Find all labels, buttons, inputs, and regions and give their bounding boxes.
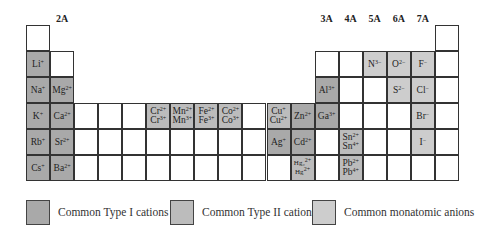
ion-symbol: Cr3+ bbox=[150, 116, 166, 125]
ion-symbol: Ba2+ bbox=[54, 164, 71, 173]
empty-cell bbox=[339, 103, 363, 129]
ion-cell: Ga3+ bbox=[315, 103, 339, 129]
ion-symbol: S2− bbox=[393, 86, 405, 95]
ion-cell: Na+ bbox=[26, 77, 50, 103]
ion-symbol: Cs+ bbox=[31, 164, 44, 173]
ion-cell: Cr2+Cr3+ bbox=[146, 103, 170, 129]
group-label: 6A bbox=[387, 13, 411, 24]
ion-cell: Ba2+ bbox=[50, 155, 74, 181]
empty-cell bbox=[170, 129, 194, 155]
empty-cell bbox=[74, 155, 98, 181]
ion-symbol: Cd2+ bbox=[294, 138, 311, 147]
ion-cell: K+ bbox=[26, 103, 50, 129]
ion-cell: Fe2+Fe3+ bbox=[194, 103, 218, 129]
empty-cell bbox=[435, 103, 459, 129]
ion-symbol: Mn3+ bbox=[173, 116, 193, 125]
empty-cell bbox=[435, 155, 459, 181]
group-label: 3A bbox=[315, 13, 339, 24]
legend-type2: Common Type II cations bbox=[170, 198, 316, 226]
ion-cell: I− bbox=[411, 129, 435, 155]
ion-cell: F− bbox=[411, 51, 435, 77]
ion-cell: Al3+ bbox=[315, 77, 339, 103]
ion-cell: Cu+Cu2+ bbox=[267, 103, 291, 129]
ion-symbol: I− bbox=[420, 138, 427, 147]
ion-symbol: Li+ bbox=[32, 60, 44, 69]
ion-symbol: Co3+ bbox=[222, 116, 239, 125]
empty-cell bbox=[315, 51, 339, 77]
ion-cell: Rb+ bbox=[26, 129, 50, 155]
empty-cell bbox=[387, 103, 411, 129]
ion-cell: N3− bbox=[363, 51, 387, 77]
empty-cell bbox=[363, 129, 387, 155]
ion-cell: Cs+ bbox=[26, 155, 50, 181]
empty-cell bbox=[435, 51, 459, 77]
ion-symbol: Sr2+ bbox=[55, 138, 70, 147]
ion-cell: Mg2+ bbox=[50, 77, 74, 103]
empty-cell bbox=[363, 155, 387, 181]
empty-cell bbox=[387, 155, 411, 181]
empty-cell bbox=[339, 77, 363, 103]
ion-symbol: Pb4+ bbox=[342, 168, 358, 177]
ion-cell: Ca2+ bbox=[50, 103, 74, 129]
empty-cell bbox=[74, 129, 98, 155]
ion-cell: Sr2+ bbox=[50, 129, 74, 155]
ion-symbol: Cu2+ bbox=[270, 116, 287, 125]
ion-cell: Zn2+ bbox=[291, 103, 315, 129]
group-label: 2A bbox=[50, 13, 74, 24]
legend-swatch-type1 bbox=[26, 200, 50, 225]
ion-cell: Co2+Co3+ bbox=[218, 103, 242, 129]
group-label: 4A bbox=[339, 13, 363, 24]
empty-cell bbox=[98, 129, 122, 155]
group-label: 7A bbox=[411, 13, 435, 24]
ion-symbol: Rb+ bbox=[31, 138, 45, 147]
ion-symbol: N3− bbox=[368, 60, 381, 69]
empty-cell bbox=[122, 155, 146, 181]
empty-cell bbox=[435, 77, 459, 103]
empty-cell bbox=[26, 25, 50, 51]
legend-label: Common Type II cations bbox=[202, 206, 316, 218]
legend-anion: Common monatomic anions bbox=[312, 198, 474, 226]
ion-cell: Ag+ bbox=[267, 129, 291, 155]
empty-cell bbox=[146, 155, 170, 181]
empty-cell bbox=[242, 155, 266, 181]
ion-symbol: F− bbox=[418, 60, 427, 69]
legend-type1: Common Type I cations bbox=[26, 198, 168, 226]
empty-cell bbox=[435, 129, 459, 155]
ion-cell: Br− bbox=[411, 103, 435, 129]
ion-cell: Cd2+ bbox=[291, 129, 315, 155]
ion-cell: Mn2+Mn3+ bbox=[170, 103, 194, 129]
ion-symbol: Ca2+ bbox=[54, 112, 71, 121]
empty-cell bbox=[315, 129, 339, 155]
ion-cell: O2− bbox=[387, 51, 411, 77]
empty-cell bbox=[363, 103, 387, 129]
empty-cell bbox=[122, 129, 146, 155]
ion-cell: Sn2+Sn4+ bbox=[339, 129, 363, 155]
legend-label: Common monatomic anions bbox=[344, 206, 474, 218]
ion-symbol: Ga3+ bbox=[318, 112, 335, 121]
empty-cell bbox=[363, 77, 387, 103]
legend-label: Common Type I cations bbox=[58, 206, 168, 218]
empty-cell bbox=[242, 129, 266, 155]
empty-cell bbox=[98, 155, 122, 181]
empty-cell bbox=[194, 155, 218, 181]
empty-cell bbox=[435, 25, 459, 51]
ion-cell: Hg₂2+Hg2+ bbox=[291, 155, 315, 181]
empty-cell bbox=[218, 155, 242, 181]
ion-symbol: Zn2+ bbox=[294, 112, 311, 121]
empty-cell bbox=[122, 103, 146, 129]
empty-cell bbox=[218, 129, 242, 155]
ion-symbol: Sn4+ bbox=[342, 142, 358, 151]
empty-cell bbox=[194, 129, 218, 155]
empty-cell bbox=[315, 155, 339, 181]
empty-cell bbox=[74, 103, 98, 129]
group-label: 5A bbox=[363, 13, 387, 24]
empty-cell bbox=[50, 51, 74, 77]
empty-cell bbox=[267, 155, 291, 181]
ion-cell: S2− bbox=[387, 77, 411, 103]
ion-symbol: Ag+ bbox=[271, 138, 286, 147]
legend-swatch-type2 bbox=[170, 200, 194, 225]
ion-symbol: Hg2+ bbox=[295, 168, 310, 177]
ion-cell: Li+ bbox=[26, 51, 50, 77]
ion-symbol: Mg2+ bbox=[52, 86, 72, 95]
ion-symbol: Na+ bbox=[31, 86, 45, 95]
